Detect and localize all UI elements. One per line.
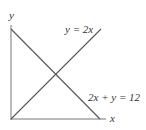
x-axis-label: x [109, 112, 115, 124]
line-label-y-eq-2x: y = 2x [64, 23, 93, 35]
graph: y x y = 2x 2x + y = 12 [0, 0, 146, 130]
y-axis-label: y [8, 9, 14, 21]
line-label-2x-plus-y-eq-12: 2x + y = 12 [88, 91, 141, 103]
